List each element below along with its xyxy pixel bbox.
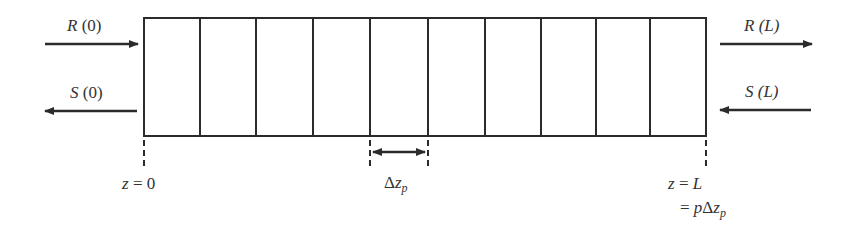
delta-symbol: Δ — [702, 198, 713, 217]
label-rl-arg: (L) — [759, 16, 780, 35]
label-z-end-line2: = pΔzp — [680, 199, 726, 219]
label-sl-arg: (L) — [758, 82, 779, 101]
equals: = — [680, 198, 694, 217]
label-sl-symbol: S — [745, 82, 754, 101]
label-s0: S (0) — [70, 84, 103, 101]
medium-box — [144, 18, 706, 136]
label-sl: S (L) — [745, 83, 779, 100]
label-z-end: z = L — [668, 175, 702, 192]
label-z-start: z = 0 — [122, 175, 155, 192]
z-value: 0 — [147, 174, 156, 193]
z-var: z — [713, 198, 720, 217]
label-rl: R (L) — [744, 17, 779, 34]
z-var: z — [122, 174, 129, 193]
label-s0-arg: (0) — [83, 83, 103, 102]
subscript-p: p — [402, 181, 408, 195]
subscript-p: p — [720, 206, 726, 220]
label-s0-symbol: S — [70, 83, 79, 102]
z-var: z — [668, 174, 675, 193]
diagram-canvas — [0, 0, 854, 232]
equals: = — [129, 174, 147, 193]
segment-dividers — [200, 18, 650, 136]
z-value: L — [693, 174, 702, 193]
label-segment-width: Δzp — [384, 174, 408, 194]
z-var: z — [395, 173, 402, 192]
label-r0-arg: (0) — [82, 16, 102, 35]
delta-symbol: Δ — [384, 173, 395, 192]
equals: = — [675, 174, 693, 193]
label-rl-symbol: R — [744, 16, 754, 35]
label-r0-symbol: R — [67, 16, 77, 35]
label-r0: R (0) — [67, 17, 101, 34]
